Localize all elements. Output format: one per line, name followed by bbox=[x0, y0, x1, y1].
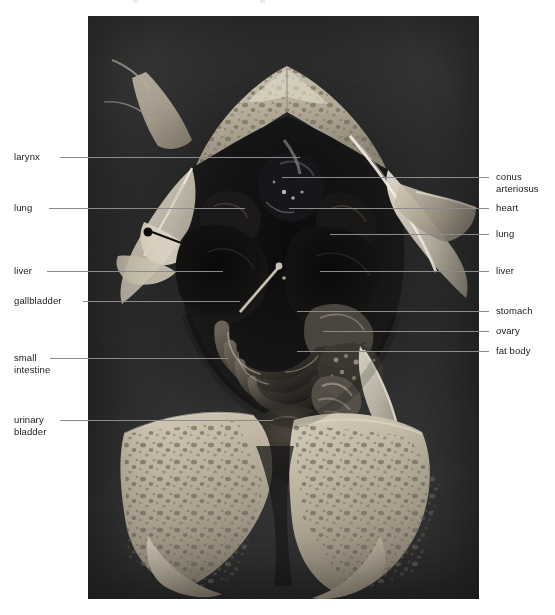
scan-artifact bbox=[260, 0, 265, 3]
label-heart: heart bbox=[496, 202, 518, 214]
label-gallbladder: gallbladder bbox=[14, 295, 62, 307]
leader-line-heart bbox=[289, 208, 489, 209]
leader-line-liver-left bbox=[47, 271, 223, 272]
label-lung-left: lung bbox=[14, 202, 32, 214]
leader-line-lung-right bbox=[330, 234, 489, 235]
label-stomach: stomach bbox=[496, 305, 533, 317]
label-ovary: ovary bbox=[496, 325, 520, 337]
leader-line-urinary-bladder bbox=[60, 420, 273, 421]
leader-line-larynx bbox=[60, 157, 300, 158]
label-liver-right: liver bbox=[496, 265, 514, 277]
dissection-photograph bbox=[88, 16, 479, 599]
label-fat-body: fat body bbox=[496, 345, 531, 357]
leader-line-ovary bbox=[323, 331, 489, 332]
label-small-intestine: small intestine bbox=[14, 352, 50, 375]
label-lung-right: lung bbox=[496, 228, 514, 240]
leader-line-stomach bbox=[297, 311, 489, 312]
scan-artifact bbox=[133, 0, 138, 3]
label-larynx: larynx bbox=[14, 151, 40, 163]
label-liver-left: liver bbox=[14, 265, 32, 277]
leader-line-small-intestine bbox=[50, 358, 228, 359]
hind-leg-left bbox=[108, 406, 288, 599]
label-urinary-bladder: urinary bladder bbox=[14, 414, 46, 437]
figure-page: larynxlunglivergallbladdersmall intestin… bbox=[0, 0, 555, 615]
leader-line-gallbladder bbox=[83, 301, 240, 302]
frog-specimen-illustration bbox=[88, 16, 479, 599]
leader-line-lung-left bbox=[49, 208, 245, 209]
label-conus-arteriosus: conus arteriosus bbox=[496, 171, 539, 194]
leader-line-conus-arteriosus bbox=[282, 177, 489, 178]
leader-line-liver-right bbox=[320, 271, 489, 272]
hind-leg-right bbox=[278, 404, 458, 599]
leader-line-fat-body bbox=[297, 351, 489, 352]
